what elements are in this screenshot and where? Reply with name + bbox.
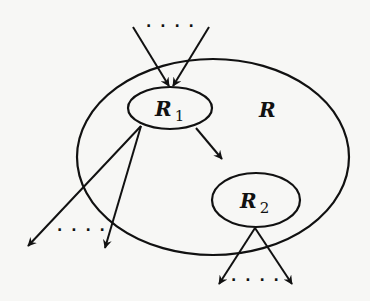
region-r-ellipse — [77, 59, 349, 255]
arrow-r1-to-r2-icon — [196, 128, 222, 159]
diagram-canvas: · · · ·· · · ·· · · · RR1R2 — [0, 0, 370, 301]
region-label-main: R — [258, 98, 276, 122]
region-label-subscript: 2 — [260, 199, 270, 217]
region-diagram: · · · ·· · · ·· · · · RR1R2 — [0, 0, 370, 301]
ellipsis-dots-layer: · · · ·· · · ·· · · · — [57, 18, 281, 288]
ellipsis-dots: · · · · — [146, 18, 196, 34]
region-label-main: R — [239, 189, 257, 213]
regions-layer — [77, 59, 349, 255]
region-label-main: R — [154, 97, 172, 121]
region-label-subscript: 1 — [175, 107, 185, 125]
region-r-label: R — [258, 98, 276, 122]
region-r2-label: R2 — [239, 189, 269, 217]
arrow-outside-to-r1-icon — [173, 27, 209, 86]
labels-layer: RR1R2 — [154, 97, 276, 217]
region-r1-label: R1 — [154, 97, 184, 125]
edges-layer — [28, 27, 292, 284]
ellipsis-dots: · · · · — [231, 272, 281, 288]
ellipsis-dots: · · · · — [57, 222, 107, 238]
arrow-outside-to-r1-icon — [133, 27, 169, 86]
